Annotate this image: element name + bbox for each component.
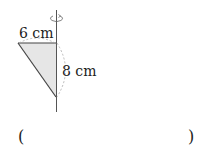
open-paren: ( — [18, 127, 24, 147]
triangle-diagram — [0, 0, 202, 120]
rotation-figure: 6 cm 8 cm — [0, 0, 202, 120]
close-paren: ) — [188, 127, 194, 147]
answer-blank[interactable]: ( ) — [0, 127, 202, 147]
vertical-leg-label: 8 cm — [62, 64, 96, 78]
top-leg-label: 6 cm — [19, 26, 53, 40]
